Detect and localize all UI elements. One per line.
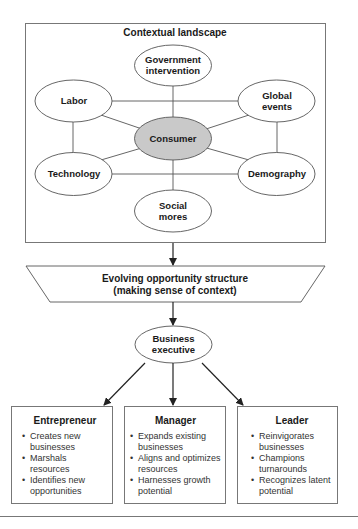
demography-line1: Demography [238, 168, 316, 179]
global-line2: events [238, 101, 316, 112]
opportunity-line2: (making sense of context) [60, 285, 290, 297]
executive-line2: executive [134, 344, 213, 355]
government-line1: Government [134, 54, 212, 65]
technology-label: Technology [35, 168, 113, 179]
leader-box: Leader Reinvigorates businesses Champion… [238, 407, 337, 503]
manager-title: Manager [130, 415, 221, 426]
opportunity-line1: Evolving opportunity structure [60, 273, 290, 285]
consumer-label: Consumer [134, 133, 212, 144]
government-label: Government intervention [134, 54, 212, 76]
global-line1: Global [238, 90, 316, 101]
bullet-item: Champions turnarounds [251, 453, 333, 475]
government-line2: intervention [134, 65, 212, 76]
labor-line1: Labor [35, 95, 113, 106]
bullet-item: Identifies new opportunities [22, 475, 108, 497]
bullet-item: Marshals resources [22, 453, 108, 475]
arrow-to-entrepreneur [104, 363, 145, 405]
leader-title: Leader [251, 415, 333, 426]
entrepreneur-title: Entrepreneur [22, 415, 108, 426]
executive-label: Business executive [134, 333, 213, 355]
entrepreneur-bullets: Creates new businesses Marshals resource… [22, 431, 108, 497]
entrepreneur-box: Entrepreneur Creates new businesses Mars… [12, 407, 112, 503]
bullet-item: Recognizes latent potential [251, 475, 333, 497]
bullet-item: Aligns and optimizes resources [130, 453, 221, 475]
social-line2: mores [134, 211, 212, 222]
opportunity-label: Evolving opportunity structure (making s… [60, 273, 290, 297]
landscape-title: Contextual landscape [100, 27, 250, 38]
demography-label: Demography [238, 168, 316, 179]
leader-bullets: Reinvigorates businesses Champions turna… [251, 431, 333, 497]
bullet-item: Expands existing businesses [130, 431, 221, 453]
labor-label: Labor [35, 95, 113, 106]
technology-line1: Technology [35, 168, 113, 179]
social-line1: Social [134, 200, 212, 211]
manager-bullets: Expands existing businesses Aligns and o… [130, 431, 221, 497]
arrow-to-leader [202, 363, 243, 405]
bullet-item: Reinvigorates businesses [251, 431, 333, 453]
bullet-item: Creates new businesses [22, 431, 108, 453]
social-mores-label: Social mores [134, 200, 212, 222]
manager-box: Manager Expands existing businesses Alig… [125, 407, 225, 503]
bullet-item: Harnesses growth potential [130, 475, 221, 497]
executive-line1: Business [134, 333, 213, 344]
global-events-label: Global events [238, 90, 316, 112]
